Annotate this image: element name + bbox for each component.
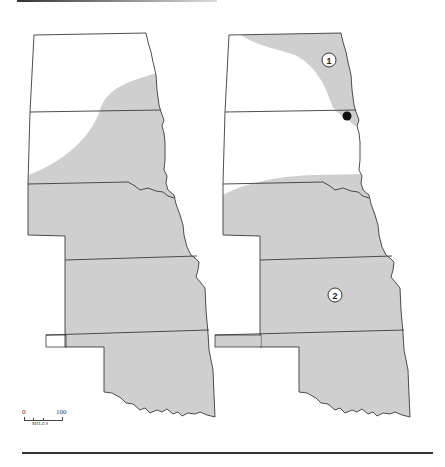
scale-tick [33, 418, 34, 420]
figure: 1 2 0 100 MILES [0, 0, 445, 467]
locality-dot [343, 112, 352, 121]
right-map: 1 2 [215, 30, 445, 430]
map-canvas: 1 2 [0, 0, 445, 467]
scale-min-label: 0 [22, 408, 26, 416]
marker-1-label: 1 [326, 56, 331, 66]
scale-units: MILES [32, 421, 49, 426]
right-panhandle [215, 335, 261, 347]
bottom-rule [22, 452, 433, 454]
marker-2: 2 [328, 288, 342, 302]
marker-2-label: 2 [332, 291, 337, 301]
marker-1: 1 [322, 53, 336, 67]
left-map [20, 33, 240, 430]
left-unshaded-panhandle [46, 335, 66, 347]
scale-bar: 0 100 MILES [22, 408, 72, 438]
scale-max-label: 100 [56, 408, 67, 416]
scale-tick [43, 418, 44, 420]
right-range-south [215, 174, 445, 430]
